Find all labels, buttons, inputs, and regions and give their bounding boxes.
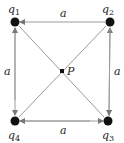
label-p: P (66, 65, 75, 78)
label-q4: q4 (8, 129, 20, 143)
label-q3: q3 (102, 129, 114, 143)
label-q2: q2 (102, 3, 114, 17)
label-side-top: a (60, 7, 67, 20)
charge-q2 (106, 18, 115, 27)
side-right-down (109, 28, 110, 115)
label-q1: q1 (8, 3, 20, 17)
point-p-marker (60, 69, 64, 73)
charge-q4 (11, 117, 20, 126)
charge-q3 (104, 117, 113, 126)
label-side-right: a (114, 65, 121, 78)
charge-square-diagram: q1 q2 q3 q4 P a a a a (0, 0, 124, 143)
label-side-bottom: a (60, 124, 67, 137)
charge-q1 (11, 18, 20, 27)
label-side-left: a (4, 65, 11, 78)
